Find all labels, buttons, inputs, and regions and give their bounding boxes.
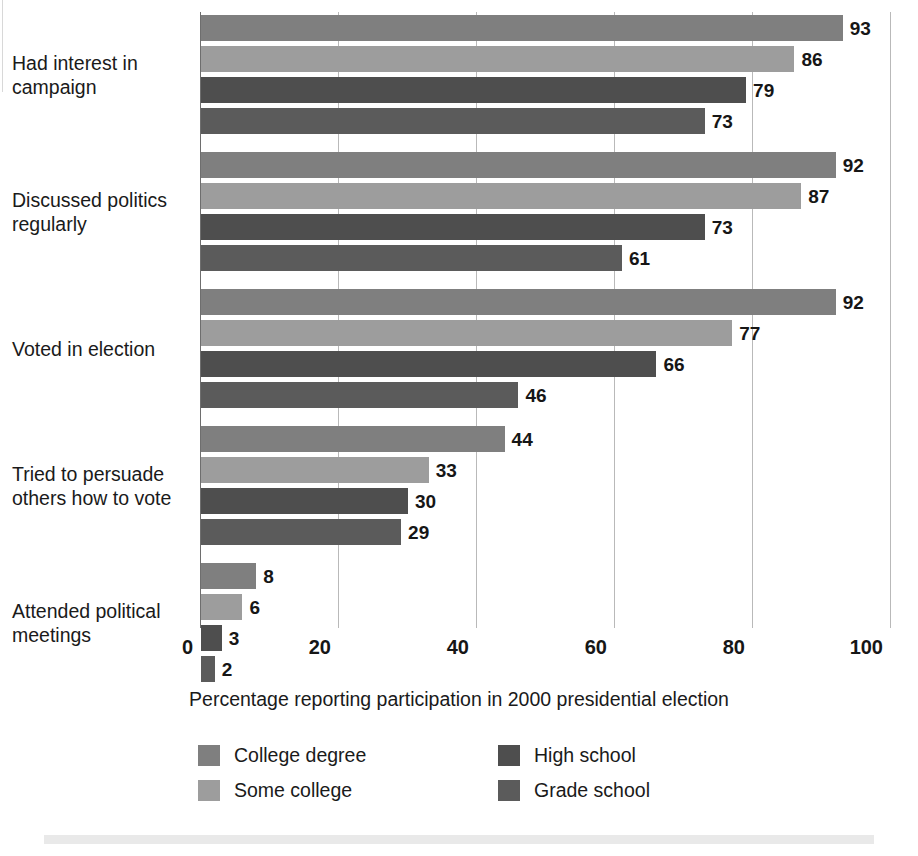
bar (201, 594, 242, 620)
bar-value-label: 29 (401, 519, 429, 545)
bar-value-label: 2 (215, 656, 233, 682)
bar-value-label: 30 (408, 488, 436, 514)
bar (201, 152, 836, 178)
legend-item[interactable]: Some college (198, 779, 498, 802)
x-tick-label: 60 (585, 636, 614, 659)
category-label: Discussed politics regularly (12, 188, 188, 236)
x-axis-caption: Percentage reporting participation in 20… (0, 688, 918, 711)
bar (201, 519, 401, 545)
left-edge-rule (2, 0, 3, 92)
bar-value-label: 6 (242, 594, 260, 620)
x-tick-label: 0 (182, 636, 200, 659)
bar (201, 382, 518, 408)
legend-label: Grade school (534, 779, 650, 802)
bar (201, 320, 732, 346)
bar (201, 351, 656, 377)
bar (201, 15, 843, 41)
category-label: Attended political meetings (12, 599, 188, 647)
legend-item[interactable]: High school (498, 744, 718, 767)
gridline-100 (890, 12, 891, 628)
x-tick-label: 80 (723, 636, 752, 659)
plot-area: 938679739287736192776646443330298632 (200, 12, 890, 628)
bar-value-label: 8 (256, 563, 274, 589)
bar-value-label: 66 (656, 351, 684, 377)
bar-value-label: 73 (705, 108, 733, 134)
category-label: Tried to persuade others how to vote (12, 462, 188, 510)
legend-label: Some college (234, 779, 352, 802)
category-label: Voted in election (12, 337, 188, 361)
bar-value-label: 3 (222, 625, 240, 651)
bar (201, 426, 505, 452)
bar-value-label: 46 (518, 382, 546, 408)
bar-value-label: 77 (732, 320, 760, 346)
x-tick-label: 20 (309, 636, 338, 659)
bar (201, 656, 215, 682)
bar (201, 214, 705, 240)
bar-value-label: 86 (794, 46, 822, 72)
bar-value-label: 93 (843, 15, 871, 41)
legend-swatch-icon (498, 745, 520, 766)
chart-legend: College degreeHigh schoolSome collegeGra… (198, 738, 718, 808)
bar-value-label: 79 (746, 77, 774, 103)
category-label: Had interest in campaign (12, 51, 188, 99)
bar (201, 108, 705, 134)
legend-swatch-icon (498, 780, 520, 801)
bar-value-label: 92 (836, 289, 864, 315)
bar (201, 77, 746, 103)
bar (201, 245, 622, 271)
bar (201, 563, 256, 589)
legend-swatch-icon (198, 780, 220, 801)
bar-value-label: 87 (801, 183, 829, 209)
bar-value-label: 33 (429, 457, 457, 483)
bar-chart-figure: 938679739287736192776646443330298632 Had… (0, 0, 918, 856)
bar (201, 46, 794, 72)
legend-label: High school (534, 744, 636, 767)
x-tick-label: 40 (447, 636, 476, 659)
bar-value-label: 73 (705, 214, 733, 240)
legend-label: College degree (234, 744, 366, 767)
legend-item[interactable]: Grade school (498, 779, 718, 802)
legend-item[interactable]: College degree (198, 744, 498, 767)
bar (201, 457, 429, 483)
bottom-decorative-band (44, 835, 874, 844)
bar-value-label: 61 (622, 245, 650, 271)
bar (201, 488, 408, 514)
bar-value-label: 44 (505, 426, 533, 452)
bar-value-label: 92 (836, 152, 864, 178)
bar (201, 289, 836, 315)
bar (201, 625, 222, 651)
legend-swatch-icon (198, 745, 220, 766)
x-tick-label: 100 (850, 636, 890, 659)
bar (201, 183, 801, 209)
